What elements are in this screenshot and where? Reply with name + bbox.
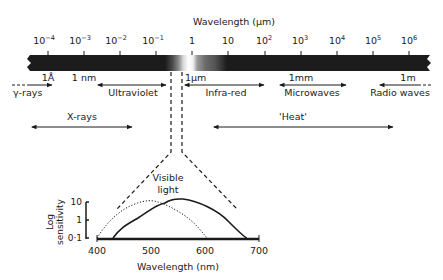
unit-micrometre: 1μm (185, 72, 206, 83)
tick-label: 10−2 (105, 34, 127, 46)
inset-ylabel-line2: sensitivity (55, 198, 65, 245)
tick-label: 10−3 (69, 34, 91, 46)
spectrum-bar (27, 51, 431, 71)
unit-millimetre: 1mm (289, 72, 314, 83)
region-ultraviolet: Ultraviolet (108, 87, 158, 98)
tick-label: 106 (401, 34, 417, 46)
unit-nanometre: 1 nm (72, 72, 96, 83)
tick-label: 103 (292, 34, 308, 46)
scotopic-curve (97, 201, 207, 238)
region-infra-red: Infra-red (206, 87, 247, 98)
tick-labels: 10−4 10−3 10−2 10−1 1 10 102 103 104 105… (33, 34, 417, 46)
em-spectrum-diagram: Wavelength (μm) 10−4 10−3 10−2 10−1 1 10… (0, 0, 443, 280)
inset-xtick: 400 (88, 245, 106, 256)
inset-title-line2: light (157, 184, 178, 195)
scale-title: Wavelength (μm) (193, 16, 275, 27)
tick-label: 104 (329, 34, 345, 46)
region-gamma-rays: γ-rays (13, 87, 42, 98)
visible-sensitivity-chart: Visible light 10 1 0·1 Log sensitivity 4… (45, 172, 268, 272)
tick-label: 1 (189, 35, 195, 46)
inset-xtick: 700 (250, 245, 268, 256)
tick-label: 102 (256, 34, 272, 46)
visible-band (165, 55, 227, 71)
inset-ytick: 1 (76, 215, 82, 225)
inset-xtick: 600 (196, 245, 214, 256)
unit-angstrom: 1Å (42, 72, 55, 83)
inset-title-line1: Visible (152, 172, 183, 183)
tick-label: 10−4 (33, 34, 55, 46)
tick-label: 105 (365, 34, 381, 46)
unit-metre: 1m (400, 72, 415, 83)
inset-xtick: 500 (142, 245, 160, 256)
region-radio-waves: Radio waves (370, 87, 430, 98)
region-microwaves: Microwaves (284, 87, 340, 98)
inset-ytick: 10 (71, 197, 83, 207)
inset-xlabel: Wavelength (nm) (137, 261, 219, 272)
region-heat: 'Heat' (279, 111, 307, 122)
tick-label: 10−1 (142, 34, 164, 46)
tick-label: 10 (222, 35, 234, 46)
tick-marks (48, 51, 409, 55)
photopic-curve (113, 199, 247, 238)
inset-ylabel-line1: Log (45, 214, 55, 230)
inset-y-axis (86, 202, 89, 239)
inset-ytick: 0·1 (68, 233, 82, 243)
inset-x-axis (97, 235, 259, 242)
region-x-rays: X-rays (67, 111, 97, 122)
